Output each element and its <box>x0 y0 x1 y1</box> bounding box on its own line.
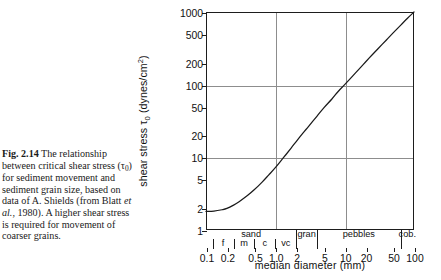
class-divider-minor <box>213 239 214 249</box>
y-axis-tau: τ <box>137 120 149 124</box>
y-axis-tick-label: 1 <box>197 226 203 237</box>
y-axis-tick-label: 5 <box>197 175 203 186</box>
y-axis-tick-label: 1000 <box>180 8 203 19</box>
grain-class-label: m <box>240 238 248 248</box>
grain-class-label: pebbles <box>343 229 375 239</box>
grain-class-label: vc <box>281 238 290 248</box>
y-axis-units-open: (dynes/cm <box>137 63 149 116</box>
y-axis-title-prefix: shear stress <box>137 125 149 187</box>
y-axis-tick-label: 20 <box>191 131 203 142</box>
grain-class-label: f <box>222 238 225 248</box>
class-divider-major <box>317 230 318 249</box>
y-axis-tick-label: 100 <box>186 80 203 91</box>
y-axis-tick-label: 500 <box>186 29 203 40</box>
x-axis-tick <box>415 248 416 252</box>
class-divider-minor <box>275 239 276 249</box>
y-axis-tau-subscript: 0 <box>143 116 152 120</box>
y-axis-title: shear stress τ0 (dynes/cm2) <box>136 55 153 186</box>
grain-size-classification-band: sandgranpebblescob.fmcvc <box>206 230 414 249</box>
x-axis-tick-label: 0.2 <box>221 253 235 264</box>
y-axis-tick-label: 10 <box>191 153 203 164</box>
y-axis-tick-label: 200 <box>186 58 203 69</box>
class-divider-minor <box>254 239 255 249</box>
y-axis-tick-label: 50 <box>191 102 203 113</box>
class-divider-minor <box>296 239 297 249</box>
y-axis-tick-label: 2 <box>197 204 203 215</box>
y-axis-units-close: ) <box>137 55 149 59</box>
grain-class-label: c <box>263 238 268 248</box>
x-axis-tick-label: 50 <box>388 253 400 264</box>
class-divider-minor <box>234 239 235 249</box>
x-axis-title: median diameter (mm) <box>255 259 366 271</box>
y-axis-units-exponent: 2 <box>136 59 145 63</box>
x-axis-tick-label: 100 <box>406 253 423 264</box>
shear-stress-curve <box>206 12 414 230</box>
grain-class-label: cob. <box>399 229 416 239</box>
curve-path <box>206 12 414 211</box>
x-axis-tick-label: 0.1 <box>200 253 214 264</box>
figure-chart: shear stress τ0 (dynes/cm2) 125102050100… <box>0 0 441 280</box>
grain-class-label: gran <box>297 229 315 239</box>
